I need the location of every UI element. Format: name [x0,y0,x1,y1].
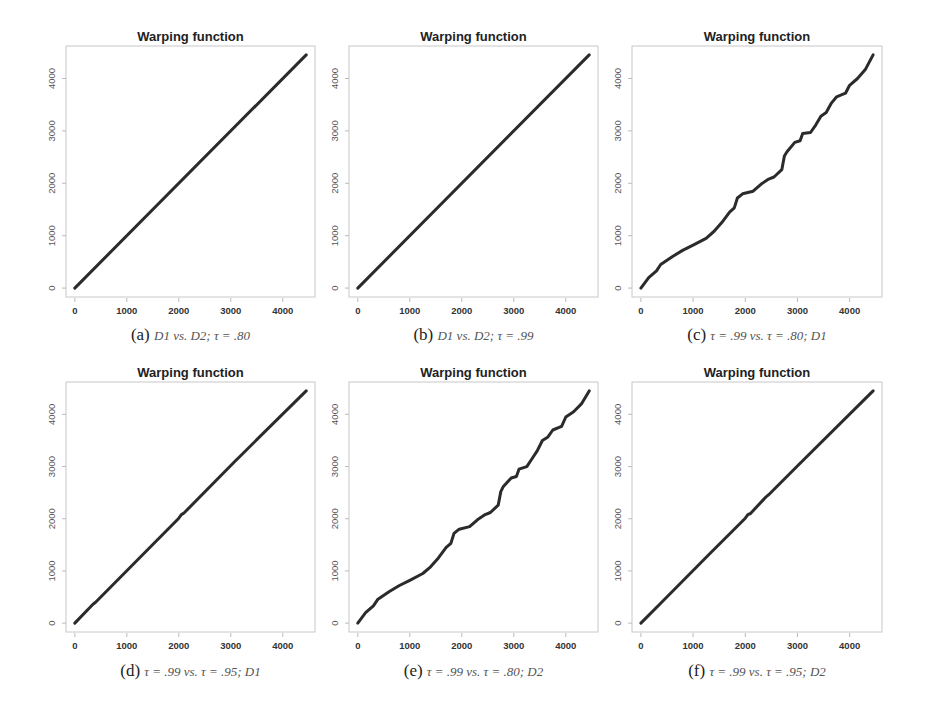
y-tick-label: 1000 [46,225,57,246]
x-tick-label: 4000 [555,305,576,316]
caption-text: τ = .99 vs. τ = .80; D1 [710,328,826,343]
x-tick-label: 1000 [399,305,420,316]
panel-title: Warping function [420,365,526,380]
x-tick-label: 2000 [735,640,756,651]
panel-caption: (c) τ = .99 vs. τ = .80; D1 [687,325,827,344]
panel-d: Warping function010002000300040000100020… [46,365,315,680]
x-tick-label: 3000 [220,305,241,316]
panel-caption: (e) τ = .99 vs. τ = .80; D2 [404,661,544,680]
warping-curve [75,55,306,288]
y-tick-label: 4000 [46,68,57,89]
caption-text: D1 vs. D2; τ = .80 [153,328,251,343]
x-tick-label: 3000 [503,305,524,316]
warping-curve [75,391,306,623]
x-tick-label: 0 [355,640,360,651]
x-tick-label: 4000 [839,640,860,651]
y-tick-label: 2000 [46,173,57,194]
y-tick-label: 2000 [46,508,57,529]
panel-caption: (b) D1 vs. D2; τ = .99 [413,325,534,344]
caption-tag: (f) [688,661,709,680]
y-tick-label: 0 [46,620,57,625]
y-tick-label: 2000 [612,508,623,529]
warping-curve [641,55,873,288]
panel-title: Warping function [704,29,810,44]
y-tick-label: 0 [46,285,57,290]
x-tick-label: 2000 [168,640,189,651]
y-tick-label: 0 [612,285,623,290]
x-tick-label: 1000 [116,640,137,651]
y-tick-label: 3000 [46,456,57,477]
caption-text: D1 vs. D2; τ = .99 [436,328,534,343]
x-tick-label: 3000 [220,640,241,651]
caption-tag: (e) [404,661,427,680]
y-tick-label: 3000 [612,456,623,477]
warping-curve [358,55,589,288]
y-tick-label: 4000 [46,404,57,425]
caption-tag: (b) [413,325,437,344]
panel-e: Warping function010002000300040000100020… [329,365,598,680]
panel-caption: (f) τ = .99 vs. τ = .95; D2 [688,661,826,680]
y-tick-label: 0 [612,620,623,625]
warping-curve [358,391,589,623]
panel-f: Warping function010002000300040000100020… [612,365,882,680]
y-tick-label: 3000 [46,120,57,141]
x-tick-label: 2000 [451,640,472,651]
y-tick-label: 0 [329,285,340,290]
y-tick-label: 2000 [329,508,340,529]
caption-text: τ = .99 vs. τ = .95; D1 [144,664,260,679]
caption-tag: (a) [131,325,154,344]
warping-curve [641,391,873,623]
x-tick-label: 2000 [168,305,189,316]
x-tick-label: 1000 [682,305,703,316]
x-tick-label: 3000 [787,640,808,651]
x-tick-label: 4000 [555,640,576,651]
caption-text: τ = .99 vs. τ = .95; D2 [709,664,826,679]
caption-tag: (d) [120,661,144,680]
y-tick-label: 2000 [612,173,623,194]
panel-title: Warping function [137,365,243,380]
y-tick-label: 3000 [329,456,340,477]
caption-tag: (c) [687,325,710,344]
x-tick-label: 2000 [735,305,756,316]
panel-b: Warping function010002000300040000100020… [329,29,598,344]
x-tick-label: 1000 [682,640,703,651]
x-tick-label: 2000 [451,305,472,316]
x-tick-label: 4000 [839,305,860,316]
x-tick-label: 0 [638,640,643,651]
panel-title: Warping function [704,365,810,380]
caption-text: τ = .99 vs. τ = .80; D2 [427,664,544,679]
x-tick-label: 1000 [399,640,420,651]
x-tick-label: 3000 [503,640,524,651]
x-tick-label: 4000 [272,640,293,651]
y-tick-label: 1000 [612,560,623,581]
y-tick-label: 4000 [612,68,623,89]
y-tick-label: 1000 [46,560,57,581]
y-tick-label: 1000 [612,225,623,246]
panel-a: Warping function010002000300040000100020… [46,29,315,344]
y-tick-label: 0 [329,620,340,625]
y-tick-label: 4000 [612,404,623,425]
y-tick-label: 4000 [329,68,340,89]
figure: Warping function010002000300040000100020… [0,0,928,717]
x-tick-label: 0 [72,305,77,316]
panel-title: Warping function [137,29,243,44]
x-tick-label: 3000 [787,305,808,316]
y-tick-label: 4000 [329,404,340,425]
panel-caption: (d) τ = .99 vs. τ = .95; D1 [120,661,260,680]
x-tick-label: 0 [638,305,643,316]
x-tick-label: 1000 [116,305,137,316]
y-tick-label: 3000 [612,120,623,141]
x-tick-label: 0 [355,305,360,316]
panel-caption: (a) D1 vs. D2; τ = .80 [131,325,251,344]
panel-title: Warping function [420,29,526,44]
panel-c: Warping function010002000300040000100020… [612,29,882,344]
y-tick-label: 1000 [329,560,340,581]
y-tick-label: 1000 [329,225,340,246]
x-tick-label: 4000 [272,305,293,316]
y-tick-label: 2000 [329,173,340,194]
y-tick-label: 3000 [329,120,340,141]
x-tick-label: 0 [72,640,77,651]
